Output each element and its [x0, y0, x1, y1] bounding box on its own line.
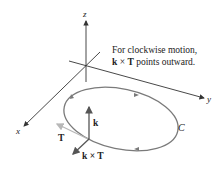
caption-rest: points outward. — [134, 57, 195, 67]
z-axis-label: z — [82, 9, 87, 19]
diagram: z y x C k T k × T — [0, 0, 224, 171]
caption-line-2: k × T points outward. — [112, 56, 224, 68]
curve-label: C — [178, 122, 185, 133]
curve-c — [58, 78, 184, 161]
caption-line-1: For clockwise motion, — [112, 44, 224, 56]
y-axis-label: y — [206, 94, 211, 104]
caption: For clockwise motion, k × T points outwa… — [112, 44, 224, 68]
caption-times: × — [117, 57, 127, 67]
k-cross-t-label: k × T — [82, 151, 104, 161]
x-axis-label: x — [15, 126, 20, 136]
k-label: k — [93, 118, 99, 128]
curve-arrow-top — [134, 93, 139, 97]
t-label: T — [58, 133, 65, 143]
